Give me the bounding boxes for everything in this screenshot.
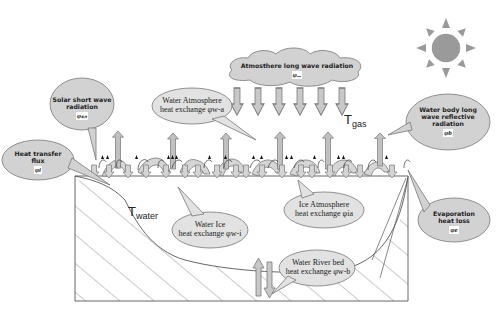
label-ice-atmosphere: Ice Atmosphere heat exchange φia xyxy=(286,200,362,218)
label-water-body-radiation: Water body long wave reflective radiatio… xyxy=(412,106,484,137)
evaporation-line1: Evaporation xyxy=(424,210,484,217)
t-water-sub: water xyxy=(136,211,158,221)
heat-transfer-symbol: φi xyxy=(34,166,42,174)
label-evaporation: Evaporation heat loss φe xyxy=(424,210,484,234)
solar-line2: radiation xyxy=(52,103,112,110)
atmosphere-down-arrows xyxy=(231,88,348,115)
water-body-line2: wave reflective xyxy=(412,113,484,120)
t-gas-label: Tgas xyxy=(344,112,366,129)
ice-atmo-line2: heat exchange φia xyxy=(286,209,362,218)
t-gas-base: T xyxy=(344,112,352,127)
label-heat-transfer: Heat transfer flux φi xyxy=(8,150,68,174)
water-ice-line2: heat exchange φw-i xyxy=(174,229,246,238)
river-bed-line1: Water River bed xyxy=(280,258,356,267)
evaporation-line2: heat loss xyxy=(424,217,484,224)
water-body-symbol: φb xyxy=(443,129,453,137)
water-body-line3: radiation xyxy=(412,120,484,127)
ice-atmo-line1: Ice Atmosphere xyxy=(286,200,362,209)
label-solar-radiation: Solar short wave radiation φₛₙ xyxy=(52,96,112,120)
t-gas-sub: gas xyxy=(352,119,367,129)
t-water-label: Twater xyxy=(128,204,158,221)
water-atmo-line1: Water Atmosphere xyxy=(154,96,230,105)
loop-arrowheads xyxy=(101,155,388,159)
diagram-canvas xyxy=(0,0,498,316)
solar-line1: Solar short wave xyxy=(52,96,112,103)
label-atmosphere-radiation: Atmosthere long wave radiation φₐₐ xyxy=(236,62,358,79)
water-ice-line1: Water Ice xyxy=(174,220,246,229)
atmosphere-symbol: φₐₐ xyxy=(292,71,302,79)
heat-transfer-line2: flux xyxy=(8,157,68,164)
label-river-bed: Water River bed heat exchange φw-b xyxy=(280,258,356,276)
solar-symbol: φₛₙ xyxy=(76,112,88,120)
heat-transfer-line1: Heat transfer xyxy=(8,150,68,157)
t-water-base: T xyxy=(128,204,136,219)
label-water-ice: Water Ice heat exchange φw-i xyxy=(174,220,246,238)
water-atmo-line2: heat exchange φw-a xyxy=(154,105,230,114)
river-bed-line2: heat exchange φw-b xyxy=(280,267,356,276)
water-body-line1: Water body long xyxy=(412,106,484,113)
atmosphere-text: Atmosthere long wave radiation xyxy=(236,62,358,69)
label-water-atmosphere: Water Atmosphere heat exchange φw-a xyxy=(154,96,230,114)
sun-icon xyxy=(406,8,485,87)
evaporation-symbol: φe xyxy=(449,226,458,234)
